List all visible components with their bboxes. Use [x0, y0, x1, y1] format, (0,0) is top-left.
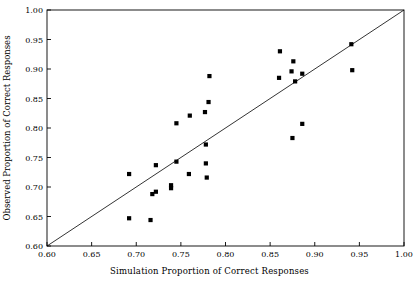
y-tick-label: 0.95: [16, 35, 43, 44]
data-point-marker: [174, 121, 178, 125]
x-axis-title: Simulation Proportion of Correct Respons…: [0, 266, 419, 276]
plot-canvas: [0, 0, 419, 284]
y-tick-label: 0.75: [16, 153, 43, 162]
data-point-markers: [127, 42, 354, 222]
data-point-marker: [169, 183, 173, 187]
data-point-marker: [293, 79, 297, 83]
data-point-marker: [206, 100, 210, 104]
data-point-marker: [150, 192, 154, 196]
y-axis-title: Observed Proportion of Correct Responses: [2, 36, 12, 221]
data-point-marker: [350, 68, 354, 72]
data-point-marker: [290, 136, 294, 140]
x-tick-label: 0.95: [350, 250, 368, 259]
x-tick-label: 0.75: [172, 250, 190, 259]
y-tick-label: 1.00: [16, 6, 43, 15]
x-tick-label: 0.90: [306, 250, 324, 259]
data-point-marker: [289, 69, 293, 73]
x-tick-label: 0.60: [38, 250, 56, 259]
x-tick-label: 1.00: [395, 250, 413, 259]
x-tick-label: 0.80: [217, 250, 235, 259]
y-tick-label: 0.70: [16, 183, 43, 192]
y-tick-label: 0.80: [16, 124, 43, 133]
data-point-marker: [154, 163, 158, 167]
data-point-marker: [154, 190, 158, 194]
data-point-marker: [188, 114, 192, 118]
scatter-plot-figure: Observed Proportion of Correct Responses…: [0, 0, 419, 284]
x-tick-label: 0.70: [127, 250, 145, 259]
data-point-marker: [300, 122, 304, 126]
x-tick-label: 0.85: [261, 250, 279, 259]
data-point-marker: [291, 59, 295, 63]
data-point-marker: [174, 160, 178, 164]
data-point-marker: [148, 218, 152, 222]
data-point-marker: [204, 161, 208, 165]
data-point-marker: [203, 110, 207, 114]
data-point-marker: [127, 216, 131, 220]
data-point-marker: [204, 142, 208, 146]
data-point-marker: [349, 42, 353, 46]
y-tick-label: 0.85: [16, 94, 43, 103]
y-tick-label: 0.60: [16, 242, 43, 251]
data-point-marker: [300, 72, 304, 76]
data-point-marker: [205, 175, 209, 179]
data-point-marker: [278, 49, 282, 53]
data-point-marker: [127, 172, 131, 176]
y-tick-label: 0.90: [16, 65, 43, 74]
y-tick-label: 0.65: [16, 212, 43, 221]
x-tick-label: 0.65: [83, 250, 101, 259]
data-point-marker: [207, 74, 211, 78]
data-point-marker: [187, 172, 191, 176]
data-point-marker: [277, 76, 281, 80]
y-axis-title-container: Observed Proportion of Correct Responses: [0, 0, 14, 256]
